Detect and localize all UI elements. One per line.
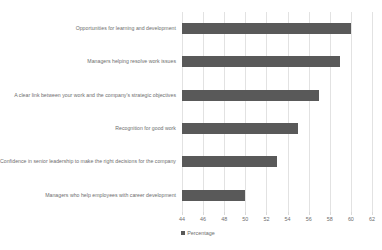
- bar[interactable]: [182, 90, 319, 101]
- x-tick-label: 50: [242, 216, 248, 222]
- legend-label: Percentage: [187, 230, 215, 236]
- x-tick-mark: [224, 212, 225, 215]
- category-label: Opportunities for learning and developme…: [0, 12, 179, 45]
- bar[interactable]: [182, 56, 340, 67]
- category-label: Managers who help employees with career …: [0, 179, 179, 212]
- gridline: [372, 12, 373, 212]
- bar-slot: [182, 145, 372, 178]
- bar[interactable]: [182, 156, 277, 167]
- bar[interactable]: [182, 123, 298, 134]
- x-tick-mark: [351, 212, 352, 215]
- bar-slot: [182, 12, 372, 45]
- category-axis-labels: Opportunities for learning and developme…: [0, 12, 179, 212]
- bar-slot: [182, 179, 372, 212]
- x-tick-mark: [372, 212, 373, 215]
- x-axis: 44464850525456586062: [182, 212, 372, 228]
- x-tick-mark: [309, 212, 310, 215]
- chart-legend: Percentage: [0, 230, 382, 236]
- legend-swatch-icon: [181, 231, 185, 235]
- x-tick-mark: [245, 212, 246, 215]
- x-tick-label: 46: [200, 216, 206, 222]
- x-tick-label: 44: [179, 216, 185, 222]
- x-tick-label: 56: [306, 216, 312, 222]
- x-tick-label: 54: [285, 216, 291, 222]
- x-tick-mark: [330, 212, 331, 215]
- x-tick-label: 58: [327, 216, 333, 222]
- bar-series: [182, 12, 372, 212]
- x-tick-mark: [182, 212, 183, 215]
- bar[interactable]: [182, 23, 351, 34]
- bar[interactable]: [182, 190, 245, 201]
- x-tick-label: 52: [263, 216, 269, 222]
- plot-area: [182, 12, 372, 212]
- horizontal-bar-chart: Opportunities for learning and developme…: [0, 0, 382, 250]
- category-label: Recognition for good work: [0, 112, 179, 145]
- x-tick-mark: [288, 212, 289, 215]
- bar-slot: [182, 45, 372, 78]
- category-label: Confidence in senior leadership to make …: [0, 145, 179, 178]
- category-label: A clear link between your work and the c…: [0, 79, 179, 112]
- x-tick-label: 60: [348, 216, 354, 222]
- x-tick-mark: [266, 212, 267, 215]
- x-tick-label: 62: [369, 216, 375, 222]
- category-label: Managers helping resolve work issues: [0, 45, 179, 78]
- bar-slot: [182, 112, 372, 145]
- x-tick-label: 48: [221, 216, 227, 222]
- bar-slot: [182, 79, 372, 112]
- x-tick-mark: [203, 212, 204, 215]
